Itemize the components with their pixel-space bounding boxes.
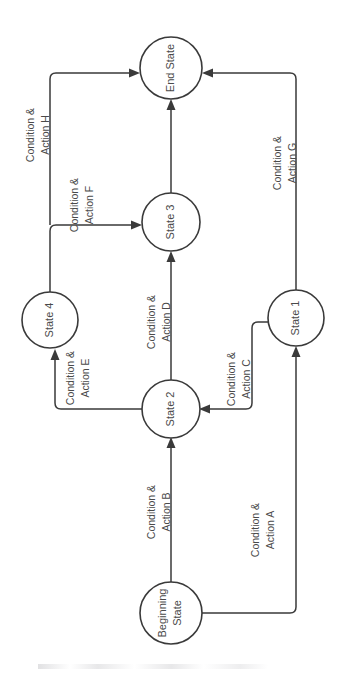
edge-f-arrowhead: [131, 221, 142, 230]
node-beginning-state[interactable]: Beginning State: [140, 582, 202, 644]
node-state-1[interactable]: State 1: [268, 290, 324, 346]
edge-d-label-line2: Action D: [160, 302, 172, 342]
edge-d-arrowhead: [167, 251, 176, 262]
edge-label-condition-action-c: Condition & Action C: [225, 352, 252, 406]
edge-state3-to-end: [167, 99, 176, 193]
edge-g-line: [210, 73, 296, 290]
node-end-state[interactable]: End State: [140, 37, 202, 99]
edge-e-label-line1: Condition &: [64, 351, 76, 405]
edge-f-label-line2: Action F: [83, 186, 95, 225]
edge-i-arrowhead: [167, 99, 176, 110]
edge-a-label-line2: Action A: [264, 511, 276, 550]
edge-label-condition-action-e: Condition & Action E: [64, 351, 91, 405]
edge-h-arrowhead: [129, 69, 140, 78]
edge-label-condition-action-b: Condition & Action B: [145, 485, 172, 539]
beginning-state-label-line1: Beginning: [156, 589, 168, 638]
edge-label-condition-action-a: Condition & Action A: [249, 503, 276, 557]
page-bottom-artifact: [38, 664, 268, 669]
edge-f-label-line1: Condition &: [68, 178, 80, 232]
edge-c-label-line1: Condition &: [225, 352, 237, 406]
state-diagram-svg: End State State 3 State 4 State 1 State …: [0, 0, 350, 675]
edge-g-label-line1: Condition &: [271, 136, 283, 190]
edge-condition-action-f: [50, 221, 142, 293]
state-2-label: State 2: [164, 392, 176, 427]
edge-g-label-line2: Action G: [286, 143, 298, 183]
edge-label-condition-action-g: Condition & Action G: [271, 136, 298, 190]
edge-label-condition-action-h: Condition & Action H: [24, 108, 51, 162]
edge-e-label-line2: Action E: [79, 358, 91, 397]
edge-h-label-line1: Condition &: [24, 108, 36, 162]
edge-b-label-line1: Condition &: [145, 485, 157, 539]
edge-g-arrowhead: [202, 69, 213, 78]
edge-label-condition-action-f: Condition & Action F: [68, 178, 95, 232]
edge-label-condition-action-d: Condition & Action D: [145, 295, 172, 349]
node-state-3[interactable]: State 3: [142, 193, 200, 251]
beginning-state-label-line2: State: [171, 600, 183, 626]
end-state-label: End State: [164, 44, 176, 92]
state-4-label: State 4: [43, 303, 55, 338]
edge-a-arrowhead: [292, 346, 301, 357]
node-state-4[interactable]: State 4: [22, 292, 78, 348]
node-state-2[interactable]: State 2: [142, 380, 200, 438]
state-3-label: State 3: [164, 205, 176, 240]
edge-h-label-line2: Action H: [39, 115, 51, 155]
edge-condition-action-h: [50, 69, 140, 226]
edge-a-label-line1: Condition &: [249, 503, 261, 557]
edge-c-label-line2: Action C: [240, 359, 252, 399]
edge-f-line: [50, 225, 134, 292]
edge-e-arrowhead: [51, 349, 60, 360]
state-1-label: State 1: [289, 301, 301, 336]
state-diagram-canvas: End State State 3 State 4 State 1 State …: [0, 0, 350, 675]
edge-c-line: [206, 322, 268, 409]
edge-b-label-line2: Action B: [160, 492, 172, 531]
edge-d-label-line1: Condition &: [145, 295, 157, 349]
